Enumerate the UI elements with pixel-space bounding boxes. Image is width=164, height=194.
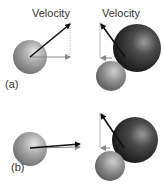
sphere-small [95, 151, 125, 181]
panel-b-right [95, 113, 158, 181]
panel-b-label: (b) [11, 162, 24, 173]
collision-diagram [0, 0, 164, 194]
panel-a-right [96, 22, 161, 91]
sphere-small [96, 61, 126, 91]
velocity-label-left: Velocity [32, 8, 70, 19]
velocity-arrow [30, 24, 70, 57]
panel-a-left [13, 24, 70, 74]
panel-a-label: (a) [5, 79, 18, 90]
velocity-label-right: Velocity [102, 8, 140, 19]
